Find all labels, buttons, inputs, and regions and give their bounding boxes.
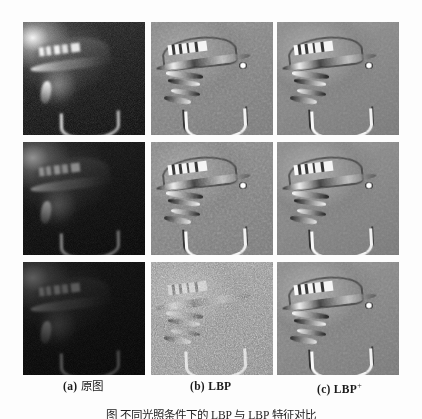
image-lbpplus-row3 — [277, 262, 399, 375]
image-lbp-row2 — [151, 142, 273, 255]
subcaption-a-tag: (a) — [63, 380, 77, 392]
subcaption-b: (b) LBP — [190, 378, 231, 394]
image-lbpplus-row1 — [277, 22, 399, 135]
image-original-row1 — [23, 22, 145, 135]
subcaption-c-tag: (c) — [317, 383, 331, 395]
image-grid — [23, 22, 400, 375]
image-original-row2 — [23, 142, 145, 255]
subcaption-c: (c) LBP+ — [317, 378, 362, 394]
subcaption-a: (a) 原图 — [63, 378, 103, 394]
figure-caption: 图 不同光照条件下的 LBP 与 LBP 特征对比 — [0, 406, 422, 419]
lbp-noise — [151, 142, 273, 255]
lbp-noise — [277, 22, 399, 135]
lbp-noise — [151, 22, 273, 135]
image-lbpplus-row2 — [277, 142, 399, 255]
lbp-noise — [277, 142, 399, 255]
subcaption-b-label: LBP — [208, 380, 231, 392]
image-original-row3 — [23, 262, 145, 375]
subcaption-c-label: LBP — [334, 383, 357, 395]
illumination-dimming — [23, 142, 145, 255]
subcaption-c-superscript: + — [357, 381, 362, 390]
subcaption-a-label: 原图 — [81, 380, 104, 392]
lbp-noise — [151, 262, 273, 375]
sensor-noise — [23, 22, 145, 135]
lbp-noise — [277, 262, 399, 375]
image-lbp-row3 — [151, 262, 273, 375]
illumination-dimming — [23, 262, 145, 375]
figure-root: (a) 原图 (b) LBP (c) LBP+ 图 不同光照条件下的 LBP 与… — [0, 0, 422, 419]
image-lbp-row1 — [151, 22, 273, 135]
subcaption-b-tag: (b) — [190, 380, 205, 392]
